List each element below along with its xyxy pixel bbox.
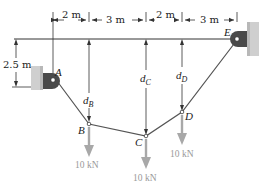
wall-A-shade (40, 66, 43, 90)
dim-label-DE: 3 m (200, 14, 220, 25)
sag-arrowhead-C-top (144, 39, 148, 45)
dim-arrowhead-right-C (149, 18, 154, 22)
sag-dimension-lines (89, 45, 182, 132)
pin-A (51, 78, 55, 82)
point-label-C: C (135, 136, 143, 148)
sag-arrowhead-D-top (180, 39, 184, 45)
sag-arrowhead-B-bottom (87, 116, 91, 122)
load-label-D: 10 kN (170, 149, 194, 159)
load-arrowhead-D (177, 133, 187, 145)
joint-B (87, 122, 91, 126)
dim-label-AB: 2 m (62, 9, 82, 20)
dim-arrowhead-left-A (53, 18, 58, 22)
vdim-arrowhead-down (14, 81, 18, 87)
sag-label-dB: dB (83, 94, 94, 109)
dim-label-CD: 2 m (156, 9, 176, 20)
joint-C (144, 134, 148, 138)
cable-diagram: 2 m 3 m 2 m 3 m 2.5 m dB dC dD A (0, 0, 263, 184)
point-label-D: D (184, 110, 193, 122)
sag-label-dD: dD (176, 69, 188, 84)
load-arrowhead-B (84, 145, 94, 157)
dim-label-BC: 3 m (106, 14, 126, 25)
dim-arrowhead-right-B (92, 18, 97, 22)
sag-label-dC: dC (140, 72, 152, 87)
cable (57, 40, 237, 136)
point-label-A: A (54, 66, 62, 78)
dim-arrowhead-right-D (185, 18, 190, 22)
pin-E (235, 37, 239, 41)
point-label-B: B (78, 124, 85, 136)
dim-label-A-vertical: 2.5 m (3, 59, 32, 70)
point-label-E: E (223, 26, 231, 38)
sag-arrowhead-B-top (87, 39, 91, 45)
joint-D (180, 110, 184, 114)
wall-E-shade (247, 22, 250, 56)
load-arrowhead-C (141, 157, 151, 169)
load-label-B: 10 kN (75, 160, 99, 170)
load-label-C: 10 kN (133, 173, 157, 183)
vdim-arrowhead-up (14, 39, 18, 45)
